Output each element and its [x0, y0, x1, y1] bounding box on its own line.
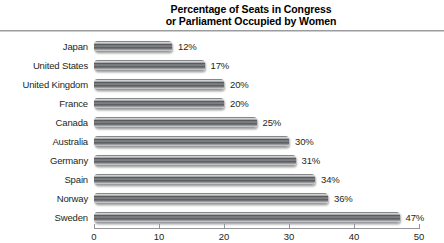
bar — [94, 79, 224, 90]
value-label: 12% — [178, 41, 197, 52]
axis-tick-label: 40 — [349, 231, 360, 242]
value-label: 31% — [302, 155, 321, 166]
axis-tick-label: 20 — [219, 231, 230, 242]
bar-chart: Percentage of Seats in Congress or Parli… — [0, 0, 444, 243]
axis-tick-label: 0 — [91, 231, 96, 242]
category-label: Norway — [0, 193, 88, 204]
bar — [94, 212, 400, 223]
value-label: 34% — [321, 174, 340, 185]
axis-tick — [419, 224, 420, 229]
bar-wrap: 36% — [94, 193, 353, 204]
axis-tick — [159, 224, 160, 229]
x-axis: 01020304050 — [94, 228, 420, 243]
value-label: 25% — [263, 117, 282, 128]
value-label: 17% — [211, 60, 230, 71]
axis-tick — [224, 224, 225, 229]
category-label: United Kingdom — [0, 79, 88, 90]
bar-row: France20% — [0, 94, 444, 113]
axis-tick — [94, 224, 95, 229]
value-label: 20% — [230, 98, 249, 109]
bar — [94, 60, 205, 71]
bar-wrap: 31% — [94, 155, 320, 166]
bar — [94, 193, 328, 204]
bar-row: Norway36% — [0, 189, 444, 208]
bar-wrap: 47% — [94, 212, 424, 223]
axis-tick — [354, 224, 355, 229]
category-label: Japan — [0, 41, 88, 52]
axis-tick-label: 10 — [154, 231, 165, 242]
bar — [94, 174, 315, 185]
bar-wrap: 30% — [94, 136, 314, 147]
value-label: 36% — [334, 193, 353, 204]
bar-row: Germany31% — [0, 151, 444, 170]
bar — [94, 117, 257, 128]
category-label: Spain — [0, 174, 88, 185]
axis-tick-label: 30 — [284, 231, 295, 242]
bar-row: Canada25% — [0, 113, 444, 132]
value-label: 47% — [406, 212, 425, 223]
category-label: United States — [0, 60, 88, 71]
bar-wrap: 34% — [94, 174, 340, 185]
bar — [94, 41, 172, 52]
bar-rows: Japan12%United States17%United Kingdom20… — [0, 37, 444, 227]
bar-row: United States17% — [0, 56, 444, 75]
bar-wrap: 20% — [94, 79, 249, 90]
bar — [94, 155, 296, 166]
chart-title-line1: Percentage of Seats in Congress — [58, 3, 444, 15]
category-label: Sweden — [0, 212, 88, 223]
value-label: 30% — [295, 136, 314, 147]
bar-row: Japan12% — [0, 37, 444, 56]
bar-row: Australia30% — [0, 132, 444, 151]
category-label: Australia — [0, 136, 88, 147]
bar-wrap: 20% — [94, 98, 249, 109]
bar-wrap: 17% — [94, 60, 229, 71]
category-label: France — [0, 98, 88, 109]
bar — [94, 136, 289, 147]
bar-row: Spain34% — [0, 170, 444, 189]
bar-row: Sweden47% — [0, 208, 444, 227]
bar-wrap: 25% — [94, 117, 281, 128]
category-label: Canada — [0, 117, 88, 128]
bar — [94, 98, 224, 109]
category-label: Germany — [0, 155, 88, 166]
title-divider — [0, 30, 444, 32]
axis-tick-label: 50 — [414, 231, 425, 242]
chart-title-line2: or Parliament Occupied by Women — [58, 15, 444, 27]
value-label: 20% — [230, 79, 249, 90]
bar-wrap: 12% — [94, 41, 197, 52]
bar-row: United Kingdom20% — [0, 75, 444, 94]
chart-title: Percentage of Seats in Congress or Parli… — [0, 0, 444, 27]
axis-tick — [289, 224, 290, 229]
